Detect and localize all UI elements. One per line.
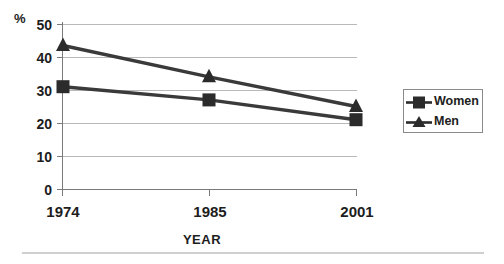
figure-bottom-rule [22, 252, 484, 254]
legend-item-men: Men [404, 111, 482, 132]
series-women [57, 80, 363, 126]
series-women-marker-1974 [57, 80, 70, 93]
x-tick-label-1974: 1974 [28, 203, 98, 220]
y-tick-label-0: 0 [24, 182, 52, 198]
legend-item-women: Women [404, 91, 482, 112]
y-tick-label-10: 10 [24, 149, 52, 165]
x-tick-label-2001: 2001 [322, 203, 392, 220]
y-tick-label-30: 30 [24, 83, 52, 99]
axes-lines [62, 22, 357, 196]
y-tick-label-50: 50 [24, 17, 52, 33]
series-men-marker-1974 [56, 38, 70, 52]
y-tick-label-20: 20 [24, 116, 52, 132]
chart-legend: Women Men [403, 89, 483, 133]
x-tick-label-1985: 1985 [175, 203, 245, 220]
series-women-marker-2001 [350, 113, 363, 126]
legend-label-men: Men [434, 115, 459, 128]
y-tick-label-40: 40 [24, 50, 52, 66]
chart-figure: % 50 40 30 20 10 0 1974 1985 2001 YEAR W… [0, 0, 504, 264]
x-axis-title: YEAR [0, 232, 404, 247]
x-tick-marks [63, 190, 357, 197]
series-women-marker-1985 [203, 93, 216, 106]
legend-square-marker-icon [404, 92, 434, 112]
legend-triangle-marker-icon [404, 112, 434, 132]
legend-label-women: Women [434, 95, 479, 108]
